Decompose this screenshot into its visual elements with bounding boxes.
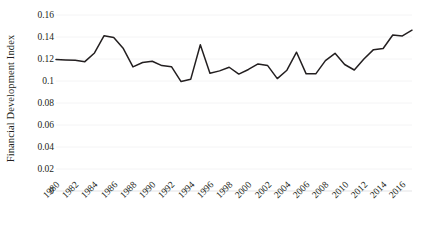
y-axis-tick-labels: 00.020.040.060.080.10.120.140.16 — [22, 0, 54, 196]
financial-development-index-chart: Financial Development Index 00.020.040.0… — [0, 0, 423, 232]
y-tick-label: 0.12 — [22, 54, 54, 64]
y-tick-label: 0.08 — [22, 98, 54, 108]
y-tick-label: 0.04 — [22, 142, 54, 152]
data-line-financial-development-index — [56, 30, 412, 81]
y-axis-title: Financial Development Index — [0, 0, 22, 196]
y-axis-title-text: Financial Development Index — [6, 34, 17, 162]
y-tick-label: 0.06 — [22, 120, 54, 130]
gridlines — [56, 15, 412, 191]
y-tick-label: 0.16 — [22, 10, 54, 20]
y-tick-label: 0.14 — [22, 32, 54, 42]
y-tick-label: 0.1 — [22, 76, 54, 86]
x-axis-tick-labels: 1980198219841986198819901992199419961998… — [56, 193, 416, 232]
plot-area — [56, 15, 412, 191]
y-tick-label: 0.02 — [22, 164, 54, 174]
chart-svg — [56, 15, 412, 191]
